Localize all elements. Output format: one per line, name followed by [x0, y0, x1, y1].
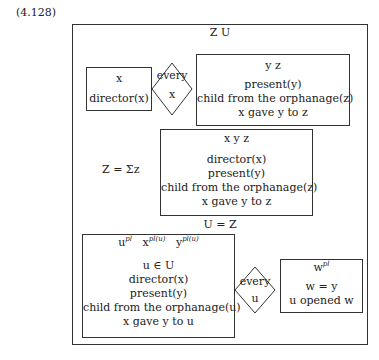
condition: present(y) [161, 167, 312, 180]
outer-referents: Z U [73, 26, 367, 39]
quantifier-var: u [234, 292, 276, 305]
restrictor-referents: x [87, 72, 151, 85]
condition: present(y) [83, 287, 234, 300]
sigma-drs-box: x y z director(x) present(y) child from … [160, 129, 313, 216]
condition: x gave y to z [197, 106, 349, 119]
bottom-referents: upl xpl(u) ypl(u) [83, 236, 234, 249]
condition: child from the orphanage(z) [161, 181, 312, 194]
condition: x gave y to u [83, 315, 234, 328]
condition: u ∈ U [83, 259, 234, 272]
quantifier-word: every [151, 69, 193, 82]
condition: w = y [281, 280, 362, 293]
condition: present(y) [197, 78, 349, 91]
quantifier-word: every [234, 275, 276, 288]
every-quantifier-diamond-bottom [234, 266, 276, 314]
restrictor-box: x director(x) [86, 67, 152, 111]
condition: director(x) [161, 153, 312, 166]
bottom-right-referents: wpl [281, 261, 362, 274]
condition: x gave y to z [161, 195, 312, 208]
scope-box: y z present(y) child from the orphanage(… [196, 54, 350, 126]
equation: U = Z [72, 218, 368, 231]
scope-box-bottom: wpl w = y u opened w [280, 259, 363, 313]
middle-referents: x y z [161, 132, 312, 145]
sigma-abstraction: Z = Σz [102, 163, 139, 176]
scope-referents: y z [197, 59, 349, 72]
condition: child from the orphanage(z) [197, 92, 349, 105]
condition: child from the orphanage(u) [83, 301, 234, 314]
condition: director(x) [83, 273, 234, 286]
example-number: (4.128) [16, 6, 56, 19]
condition: director(x) [87, 92, 151, 105]
quantifier-var: x [151, 88, 193, 101]
restrictor-box-bottom: upl xpl(u) ypl(u) u ∈ U director(x) pres… [82, 234, 235, 338]
condition: u opened w [281, 294, 362, 307]
